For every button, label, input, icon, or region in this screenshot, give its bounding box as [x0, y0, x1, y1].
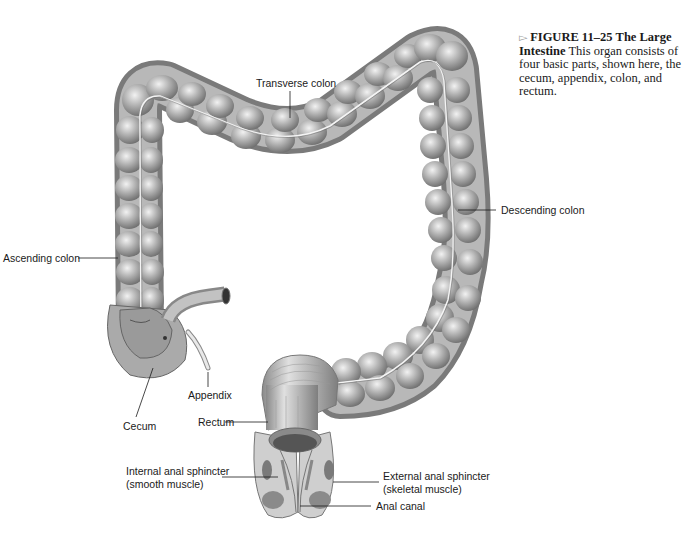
label-external-sphincter-type: (skeletal muscle)	[383, 483, 462, 495]
label-descending-colon: Descending colon	[501, 204, 584, 216]
anal-sphincter-region	[254, 428, 334, 518]
figure-title-a: The	[616, 30, 637, 44]
label-rectum: Rectum	[198, 416, 234, 428]
label-transverse-colon: Transverse colon	[256, 77, 336, 89]
label-appendix: Appendix	[188, 389, 232, 401]
label-internal-sphincter-type: (smooth muscle)	[126, 478, 204, 490]
label-internal-sphincter: Internal anal sphincter	[126, 465, 229, 477]
figure-number: FIGURE 11–25	[530, 30, 612, 44]
label-external-sphincter: External anal sphincter	[383, 470, 490, 482]
label-anal-canal: Anal canal	[376, 500, 425, 512]
figure-caption: ▻ FIGURE 11–25 The Large Intestine This …	[519, 31, 689, 99]
large-intestine-figure: Transverse colon Ascending colon Descend…	[0, 0, 692, 550]
label-ascending-colon: Ascending colon	[3, 252, 80, 264]
caption-marker-icon: ▻	[519, 31, 527, 43]
label-cecum: Cecum	[123, 420, 156, 432]
